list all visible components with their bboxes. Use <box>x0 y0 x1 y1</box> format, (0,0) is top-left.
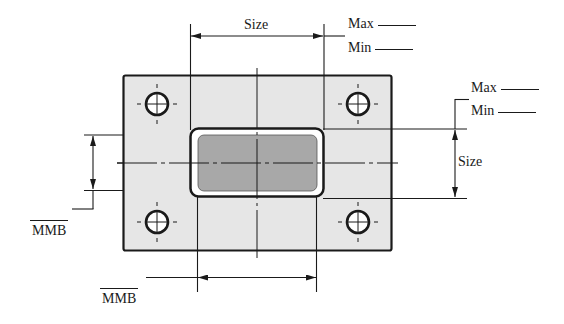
right-max-label: Max <box>471 80 497 95</box>
right-max-field: Max <box>471 80 539 96</box>
bottom-mmb-overbar <box>100 288 138 289</box>
right-min-field: Min <box>471 103 536 119</box>
right-min-label: Min <box>471 103 494 118</box>
top-min-label: Min <box>348 40 371 55</box>
right-min-blank <box>498 112 536 113</box>
left-mmb-overbar <box>30 220 68 221</box>
top-max-field: Max <box>348 16 416 32</box>
top-min-field: Min <box>348 40 413 56</box>
right-size-label: Size <box>458 154 482 170</box>
top-size-label: Size <box>244 17 268 33</box>
left-dimension <box>72 135 124 209</box>
top-max-label: Max <box>348 16 374 31</box>
left-mmb-label: MMB <box>32 223 66 239</box>
bottom-mmb-label: MMB <box>102 291 136 307</box>
right-max-blank <box>501 89 539 90</box>
top-max-blank <box>378 25 416 26</box>
top-min-blank <box>375 49 413 50</box>
